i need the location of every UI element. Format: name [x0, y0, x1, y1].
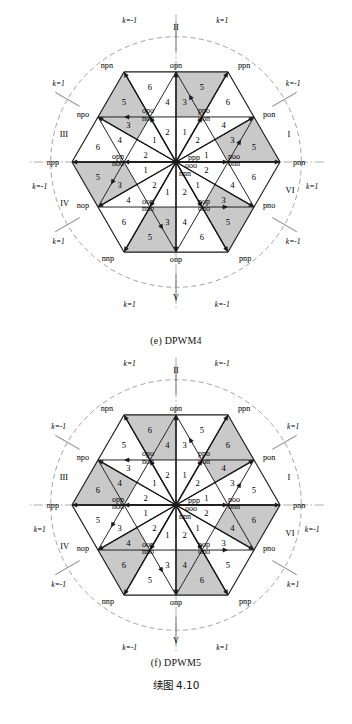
region-number-6: 6 — [122, 217, 127, 227]
k-label-top-left: k=1 — [124, 359, 136, 368]
vertex-label-pnp: pnp — [239, 254, 251, 263]
region-number-4: 4 — [165, 440, 170, 450]
inner-label-ono: ono — [198, 204, 210, 213]
inner-label-noo: noo — [112, 502, 124, 511]
region-number-5: 5 — [226, 560, 230, 570]
region-number-2: 2 — [144, 150, 148, 160]
vertex-label-onp: onp — [170, 255, 182, 264]
sector-label-II: II — [173, 23, 179, 32]
k-label-upper-right: k=-1 — [286, 79, 301, 88]
vertex-label-onp: onp — [170, 598, 182, 607]
region-number-6: 6 — [148, 425, 153, 435]
region-number-5: 5 — [96, 172, 100, 182]
region-number-6: 6 — [148, 82, 153, 92]
region-number-1: 1 — [196, 523, 200, 533]
region-number-2: 2 — [196, 478, 200, 488]
sector-label-III: III — [60, 130, 69, 139]
region-number-1: 1 — [183, 127, 187, 137]
region-number-1: 1 — [196, 180, 200, 190]
vertex-label-npp: npp — [47, 501, 59, 510]
vertex-label-pnn: pnn — [293, 501, 305, 510]
region-number-3: 3 — [183, 97, 187, 107]
k-label-bottom-left: k=-1 — [122, 643, 137, 652]
region-number-6: 6 — [96, 142, 101, 152]
k-label-top-right: k=-1 — [215, 359, 230, 368]
region-number-1: 1 — [165, 530, 169, 540]
sector-label-II: II — [173, 366, 179, 375]
region-number-6: 6 — [226, 97, 231, 107]
region-number-4: 4 — [183, 560, 188, 570]
region-number-3: 3 — [230, 478, 234, 488]
region-number-1: 1 — [165, 187, 169, 197]
region-number-4: 4 — [118, 135, 123, 145]
region-number-6: 6 — [252, 172, 257, 182]
sector-label-V: V — [173, 293, 179, 302]
region-number-2: 2 — [183, 187, 187, 197]
k-label-lower-right: k=1 — [287, 580, 299, 589]
vertex-label-pon: pon — [263, 110, 275, 119]
zero-vector-nnn: nnn — [179, 169, 191, 178]
region-number-5: 5 — [252, 142, 256, 152]
k-label-upper-left: k=1 — [53, 79, 65, 88]
region-number-2: 2 — [204, 508, 208, 518]
k-label-mid-left: k=1 — [34, 525, 46, 534]
region-number-2: 2 — [183, 530, 187, 540]
vertex-label-npo: npo — [77, 453, 89, 462]
region-number-3: 3 — [183, 440, 187, 450]
region-number-1: 1 — [152, 478, 156, 488]
k-label-mid-right: k=1 — [306, 182, 318, 191]
region-number-2: 2 — [152, 523, 156, 533]
vertex-label-ppn: ppn — [238, 61, 250, 70]
vertex-label-ppn: ppn — [238, 404, 250, 413]
region-number-1: 1 — [204, 493, 208, 503]
vertex-label-nop: nop — [77, 201, 89, 210]
region-number-3: 3 — [126, 463, 130, 473]
region-number-1: 1 — [152, 135, 156, 145]
k-label-bottom-left: k=1 — [124, 300, 136, 309]
region-number-4: 4 — [230, 523, 235, 533]
region-number-3: 3 — [126, 120, 130, 130]
region-number-3: 3 — [222, 195, 226, 205]
k-label-bottom-right: k=-1 — [215, 300, 230, 309]
vertex-label-npn: npn — [101, 404, 113, 413]
region-number-3: 3 — [222, 538, 226, 548]
vertex-label-pnp: pnp — [239, 597, 251, 606]
region-number-6: 6 — [200, 232, 205, 242]
region-number-5: 5 — [122, 97, 126, 107]
region-number-2: 2 — [152, 180, 156, 190]
region-number-4: 4 — [222, 463, 227, 473]
k-label-mid-right: k=-1 — [305, 525, 320, 534]
region-number-5: 5 — [200, 82, 204, 92]
diagram-dpwm5: pnnppnnpnnppnnppnpponopnnponoponppnopooo… — [0, 355, 352, 700]
region-number-1: 1 — [144, 508, 148, 518]
region-number-2: 2 — [196, 135, 200, 145]
region-number-3: 3 — [165, 217, 169, 227]
inner-label-onn: onn — [228, 159, 240, 168]
vertex-label-nop: nop — [77, 544, 89, 553]
inner-label-non: non — [142, 114, 154, 123]
inner-label-nno: nno — [142, 547, 154, 556]
inner-label-oon: oon — [198, 457, 210, 466]
k-label-top-left: k=-1 — [122, 16, 137, 25]
region-number-2: 2 — [144, 493, 148, 503]
caption-dpwm5: (f) DPWM5 — [0, 657, 352, 668]
k-label-mid-left: k=-1 — [32, 182, 47, 191]
vertex-label-pon: pon — [263, 453, 275, 462]
sector-label-III: III — [60, 473, 69, 482]
caption-dpwm4: (e) DPWM4 — [0, 335, 352, 346]
k-label-lower-right: k=-1 — [286, 237, 301, 246]
k-label-upper-left: k=-1 — [51, 422, 66, 431]
figure-page: pnnppnnpnnppnnppnpponopnnponoponppnopooo… — [0, 0, 352, 724]
sector-label-I: I — [288, 130, 291, 139]
vertex-label-pno: pno — [263, 544, 275, 553]
inner-label-ono: ono — [198, 547, 210, 556]
k-label-bottom-right: k=1 — [216, 643, 228, 652]
diagram-dpwm4: pnnppnnpnnppnnppnpponopnnponoponppnopooo… — [0, 0, 352, 355]
vertex-label-opn: opn — [170, 404, 182, 413]
region-number-5: 5 — [252, 485, 256, 495]
vertex-label-nnp: nnp — [102, 254, 114, 263]
vertex-label-pno: pno — [263, 201, 275, 210]
k-label-lower-left: k=1 — [53, 237, 65, 246]
sector-label-V: V — [173, 636, 179, 645]
region-number-3: 3 — [118, 523, 122, 533]
